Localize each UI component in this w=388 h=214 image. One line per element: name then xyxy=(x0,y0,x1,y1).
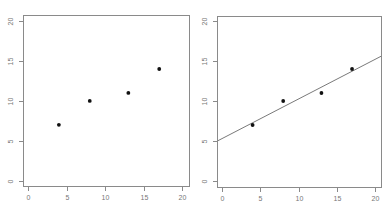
x-tick-label: 0 xyxy=(221,195,225,202)
x-tick-label: 15 xyxy=(334,195,342,202)
data-point xyxy=(320,91,324,95)
data-point xyxy=(281,99,285,103)
x-tick-label: 10 xyxy=(296,195,304,202)
scatter-plot-right-with-fit-line: 0510152005101520 xyxy=(201,17,388,203)
y-tick-label: 0 xyxy=(7,179,14,183)
y-tick-label: 10 xyxy=(7,98,14,106)
y-tick-label: 10 xyxy=(201,98,208,106)
x-tick-label: 0 xyxy=(27,194,31,201)
y-tick-label: 15 xyxy=(201,58,208,66)
y-tick-label: 15 xyxy=(7,58,14,66)
x-tick-label: 20 xyxy=(372,195,380,202)
regression-line xyxy=(209,52,388,145)
data-point xyxy=(157,67,161,71)
scatter-plot-left: 0510152005101520 xyxy=(7,16,190,202)
x-tick-label: 10 xyxy=(102,194,110,201)
data-point xyxy=(251,123,255,127)
scatter-chart-figure: 0510152005101520 0510152005101520 xyxy=(0,0,388,214)
x-axis: 05101520 xyxy=(221,188,380,202)
y-tick-label: 0 xyxy=(201,179,208,183)
data-point xyxy=(88,99,92,103)
data-point xyxy=(350,67,354,71)
data-point xyxy=(126,91,130,95)
y-tick-label: 20 xyxy=(7,18,14,26)
y-tick-label: 20 xyxy=(201,18,208,26)
x-tick-label: 5 xyxy=(259,195,263,202)
y-tick-label: 5 xyxy=(7,139,14,143)
data-points xyxy=(57,67,161,127)
y-axis: 05101520 xyxy=(201,18,217,184)
x-tick-label: 15 xyxy=(141,194,149,201)
x-tick-label: 5 xyxy=(66,194,70,201)
y-tick-label: 5 xyxy=(201,139,208,143)
x-axis: 05101520 xyxy=(27,187,187,201)
x-tick-label: 20 xyxy=(179,194,187,201)
plot-frame xyxy=(218,17,382,188)
data-point xyxy=(57,123,61,127)
y-axis: 05101520 xyxy=(7,18,23,184)
plot-frame xyxy=(24,16,190,187)
